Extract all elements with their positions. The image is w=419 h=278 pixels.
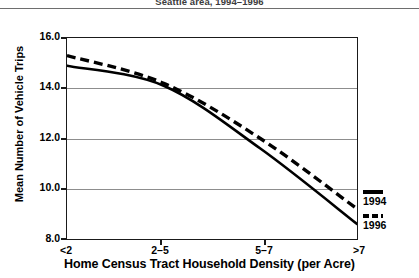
y-axis-label: Mean Number of Vehicle Trips: [13, 19, 25, 229]
legend-label-1996: 1996: [363, 219, 386, 231]
series-line-1996: [67, 56, 357, 209]
x-tick-label-5-7: 5–7: [234, 245, 294, 256]
y-tick-label-8: 8.0: [26, 233, 60, 243]
y-tick-label-16: 16.0: [26, 31, 60, 41]
header-rule: [0, 8, 419, 9]
y-tick-label-10: 10.0: [26, 182, 60, 192]
legend-item-1996: 1996: [363, 210, 419, 234]
x-tick-label-2-5: 2–5: [130, 245, 190, 256]
x-tick-label-gt7: >7: [329, 245, 389, 256]
chart-figure: Seattle area, 1994–1996 Mean Number of V…: [0, 0, 419, 278]
chart-title: Seattle area, 1994–1996: [0, 0, 419, 8]
x-axis-label: Home Census Tract Household Density (per…: [0, 257, 419, 271]
y-tick-label-12: 12.0: [26, 132, 60, 142]
chart-legend: 1994 1996: [363, 186, 419, 234]
legend-label-1994: 1994: [363, 195, 386, 207]
legend-swatch-solid-icon: [363, 190, 383, 194]
series-line-1994: [67, 66, 357, 224]
chart-title-clipped: Seattle area, 1994–1996: [0, 0, 419, 8]
legend-item-1994: 1994: [363, 186, 419, 210]
y-tick-label-14: 14.0: [26, 81, 60, 91]
series-lines: [67, 38, 357, 239]
plot-area: [66, 37, 358, 240]
x-tick-label-lt2: <2: [36, 245, 96, 256]
legend-swatch-dashed-icon: [363, 214, 383, 218]
